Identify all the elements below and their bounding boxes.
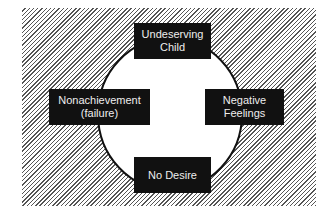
node-label-line1: Nonachievement bbox=[58, 94, 141, 107]
node-no-desire: No Desire bbox=[134, 157, 211, 193]
node-label-line1: Undeserving bbox=[142, 28, 204, 41]
node-negative-feelings: Negative Feelings bbox=[205, 89, 284, 125]
node-label-line1: No Desire bbox=[148, 169, 197, 182]
node-label-line1: Negative bbox=[223, 94, 266, 107]
node-label-line2: Feelings bbox=[224, 107, 266, 120]
node-nonachievement: Nonachievement (failure) bbox=[49, 89, 150, 125]
node-label-line2: (failure) bbox=[81, 107, 118, 120]
node-label-line2: Child bbox=[160, 41, 185, 54]
node-undeserving-child: Undeserving Child bbox=[134, 23, 211, 59]
